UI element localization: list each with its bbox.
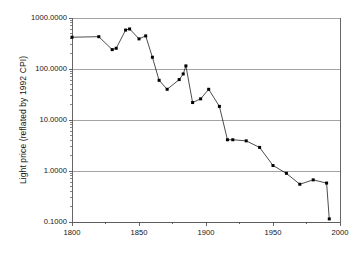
data-point-marker [258, 146, 261, 149]
data-point-marker [231, 138, 234, 141]
data-point-marker [272, 164, 275, 167]
y-axis-ticks [69, 18, 73, 222]
y-tick-label: 1000.0000 [19, 13, 67, 22]
data-point-marker [226, 138, 229, 141]
data-point-marker [184, 64, 187, 67]
data-point-marker [325, 182, 328, 185]
data-point-marker [207, 88, 210, 91]
series-line [72, 29, 329, 219]
y-axis-title: Light price (reflated by 1992 CPI) [18, 56, 28, 184]
data-point-marker [298, 183, 301, 186]
data-point-marker [151, 56, 154, 59]
y-tick-label: 0.1000 [19, 217, 67, 226]
x-tick-label: 1950 [253, 228, 293, 237]
x-tick-label: 1850 [119, 228, 159, 237]
data-point-marker [178, 78, 181, 81]
x-tick-label: 1800 [52, 228, 92, 237]
data-point-marker [218, 105, 221, 108]
chart-figure: 1000.0000100.000010.00001.00000.10001800… [0, 0, 357, 258]
data-series [71, 27, 331, 220]
data-point-marker [71, 36, 74, 39]
x-axis-ticks [72, 222, 340, 226]
data-point-marker [199, 97, 202, 100]
data-point-marker [182, 72, 185, 75]
data-point-marker [115, 47, 118, 50]
data-point-marker [124, 29, 127, 32]
x-tick-label: 2000 [320, 228, 357, 237]
data-point-marker [111, 48, 114, 51]
data-point-marker [158, 79, 161, 82]
data-point-marker [166, 88, 169, 91]
data-point-marker [97, 35, 100, 38]
data-point-marker [285, 172, 288, 175]
data-point-marker [144, 34, 147, 37]
data-point-marker [138, 37, 141, 40]
data-point-marker [245, 139, 248, 142]
data-point-marker [328, 217, 331, 220]
data-point-marker [191, 101, 194, 104]
data-point-marker [128, 27, 131, 30]
data-point-marker [312, 178, 315, 181]
x-tick-label: 1900 [186, 228, 226, 237]
